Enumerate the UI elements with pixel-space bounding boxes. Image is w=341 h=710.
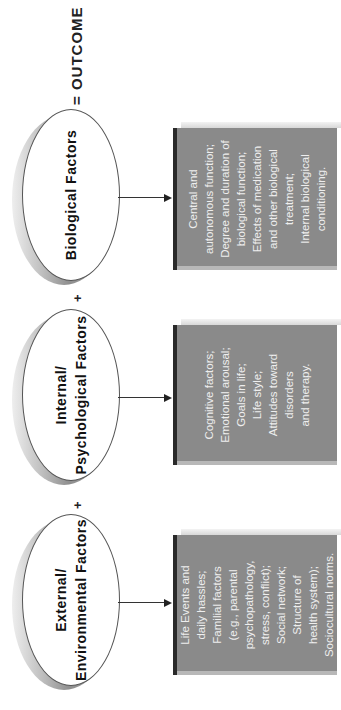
diagram-canvas: External/ Environmental Factors Life Eve… bbox=[0, 0, 341, 710]
factor-title-line2: Biological Factors bbox=[61, 130, 81, 260]
plus-operator: + bbox=[70, 294, 85, 302]
factor-title-line1: External/ bbox=[51, 519, 71, 681]
ellipse-label: Internal/ Psychological Factors bbox=[22, 309, 120, 481]
factor-ellipse-internal: Internal/ Psychological Factors bbox=[12, 309, 120, 485]
factor-details-external: Life Events and daily hassles; Familial … bbox=[173, 535, 337, 675]
arrow-down-icon bbox=[164, 394, 172, 402]
factor-ellipse-biological: Biological Factors bbox=[12, 109, 120, 285]
arrow-down-icon bbox=[164, 194, 172, 202]
factor-details-internal: Cognitive factors; Emotional arousal; Go… bbox=[173, 325, 337, 465]
plus-operator: + bbox=[70, 501, 85, 509]
arrow-line bbox=[118, 197, 168, 198]
ellipse-label: Biological Factors bbox=[22, 109, 120, 281]
factor-title-line2: Environmental Factors bbox=[71, 519, 91, 681]
factor-title-line2: Psychological Factors bbox=[71, 315, 91, 474]
factor-details-biological: Central and autonomous function; Degree … bbox=[173, 128, 337, 270]
factor-ellipse-external: External/ Environmental Factors bbox=[12, 514, 120, 690]
ellipse-label: External/ Environmental Factors bbox=[22, 514, 120, 686]
arrow-line bbox=[118, 397, 168, 398]
factor-title-line1: Internal/ bbox=[51, 315, 71, 474]
arrow-line bbox=[118, 602, 168, 603]
arrow-down-icon bbox=[164, 599, 172, 607]
outcome-label: = OUTCOME bbox=[68, 6, 85, 105]
